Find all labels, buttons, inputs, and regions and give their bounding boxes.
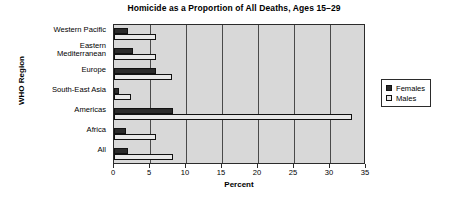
legend-item-females: Females <box>386 83 425 93</box>
y-axis-tick-label: Europe <box>14 66 106 74</box>
bar-females <box>114 128 126 134</box>
bar-males <box>114 154 173 160</box>
x-axis-tick-label: 0 <box>101 168 125 177</box>
bar-group <box>114 25 364 45</box>
legend-item-males: Males <box>386 93 425 103</box>
x-axis-tick-label: 30 <box>317 168 341 177</box>
bar-females <box>114 28 128 34</box>
bar-females <box>114 108 173 114</box>
y-axis-tick-label: Mediterranean <box>14 50 106 58</box>
bar-females <box>114 148 128 154</box>
bar-males <box>114 134 156 140</box>
y-axis-tick-label: Americas <box>14 106 106 114</box>
bar-males <box>114 74 172 80</box>
chart-legend: FemalesMales <box>381 79 431 107</box>
chart-title: Homicide as a Proportion of All Deaths, … <box>0 3 468 13</box>
bar-females <box>114 88 119 94</box>
x-axis-tick-label: 15 <box>209 168 233 177</box>
bar-group <box>114 125 364 145</box>
bar-males <box>114 94 131 100</box>
bar-males <box>114 54 156 60</box>
bar-males <box>114 34 156 40</box>
bar-males <box>114 114 352 120</box>
chart-figure: Homicide as a Proportion of All Deaths, … <box>0 0 468 198</box>
x-axis-tick-label: 35 <box>353 168 377 177</box>
plot-area <box>113 24 365 164</box>
x-axis-tick-label: 20 <box>245 168 269 177</box>
legend-swatch-males <box>386 95 392 101</box>
legend-swatch-females <box>386 85 392 91</box>
bar-group <box>114 105 364 125</box>
y-axis-tick-label: Western Pacific <box>14 26 106 34</box>
bar-group <box>114 145 364 165</box>
bar-females <box>114 68 156 74</box>
x-axis-tick-label: 5 <box>137 168 161 177</box>
x-axis-tick-label: 25 <box>281 168 305 177</box>
legend-label: Males <box>396 94 416 103</box>
y-axis-tick-label: Africa <box>14 126 106 134</box>
legend-label: Females <box>396 84 425 93</box>
y-axis-tick-label: South-East Asia <box>14 86 106 94</box>
x-axis-title: Percent <box>113 180 365 189</box>
x-axis-tick-label: 10 <box>173 168 197 177</box>
bar-group <box>114 85 364 105</box>
bar-females <box>114 48 133 54</box>
bar-group <box>114 65 364 85</box>
y-axis-labels: Western PacificEasternMediterraneanEurop… <box>20 24 110 164</box>
y-axis-tick-label: All <box>14 146 106 154</box>
bar-group <box>114 45 364 65</box>
